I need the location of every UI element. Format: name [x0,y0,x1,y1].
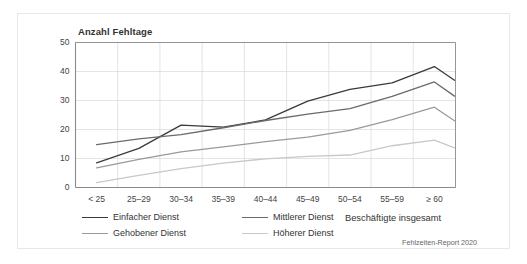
legend-item-3[interactable]: Gehobener Dienst [82,228,186,238]
legend-line-swatch [242,233,268,234]
y-axis-tick-label: 50 [48,37,70,47]
x-axis-tick-label: 25–29 [115,194,163,204]
x-axis-tick-label: 45–49 [284,194,332,204]
axis-lines [76,43,456,188]
legend-item-label: Einfacher Dienst [113,212,179,222]
legend-line-swatch [82,233,108,234]
y-axis-tick-label: 0 [48,182,70,192]
series-line-2 [97,82,455,145]
y-axis-tick-label: 20 [48,124,70,134]
legend-item-label: Gehobener Dienst [113,228,186,238]
x-axis-tick-label: 30–34 [157,194,205,204]
total-series-label: Beschäftigte insgesamt [345,213,441,223]
source-note: Fehlzeiten-Report 2020 [402,238,477,247]
x-axis-tick-label: < 25 [73,194,121,204]
legend-item-label: Höherer Dienst [273,228,334,238]
x-axis-tick-label: 50–54 [326,194,374,204]
legend-item-label: Mittlerer Dienst [273,212,334,222]
x-axis-tick-label: 55–59 [368,194,416,204]
series-line-1 [97,67,455,163]
x-axis-tick-label: ≥ 60 [410,194,458,204]
gridlines [76,43,456,188]
legend-item-4[interactable]: Höherer Dienst [242,228,334,238]
legend-item-1[interactable]: Einfacher Dienst [82,212,179,222]
chart-figure: Anzahl Fehltage 01020304050 < 2525–2930–… [0,0,527,264]
x-axis-tick-label: 35–39 [199,194,247,204]
y-axis-tick-label: 30 [48,95,70,105]
series-lines [97,67,455,183]
legend-item-2[interactable]: Mittlerer Dienst [242,212,334,222]
y-axis-tick-label: 10 [48,153,70,163]
legend-line-swatch [242,217,268,218]
legend-line-swatch [82,217,108,218]
x-axis-tick-label: 40–44 [242,194,290,204]
y-axis-tick-label: 40 [48,66,70,76]
series-line-4 [97,140,455,182]
